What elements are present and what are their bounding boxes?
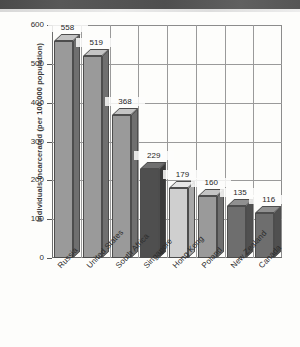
y-tick-label: 0 xyxy=(10,253,44,262)
y-tick-mark xyxy=(47,103,52,104)
y-tick-mark xyxy=(47,142,52,143)
y-tick-label: 400 xyxy=(10,98,44,107)
y-tick-mark xyxy=(47,258,52,259)
y-tick-label: 600 xyxy=(10,20,44,29)
bar-value-label: 368 xyxy=(105,97,145,106)
bar-side-face xyxy=(102,50,109,258)
y-tick-mark xyxy=(47,180,52,181)
bar-value-label: 116 xyxy=(249,195,289,204)
y-tick-mark xyxy=(47,219,52,220)
bar-value-label: 160 xyxy=(191,178,231,187)
gridline-vertical xyxy=(110,25,111,258)
bar[interactable] xyxy=(83,56,102,258)
gridline-vertical xyxy=(253,25,254,258)
bar-front-face xyxy=(54,41,73,258)
y-tick-label: 200 xyxy=(10,175,44,184)
y-tick-label: 500 xyxy=(10,59,44,68)
bar-chart: Individuals Incarcerated (per 100,000 po… xyxy=(0,0,300,347)
gridline-vertical xyxy=(196,25,197,258)
bar-value-label: 519 xyxy=(76,38,116,47)
y-tick-mark xyxy=(47,64,52,65)
gridline-vertical xyxy=(225,25,226,258)
bar-value-label: 229 xyxy=(134,151,174,160)
bar-front-face xyxy=(83,56,102,258)
gridline-vertical xyxy=(81,25,82,258)
gridline-vertical xyxy=(167,25,168,258)
y-tick-label: 100 xyxy=(10,214,44,223)
bar-side-face xyxy=(131,109,138,258)
bar-value-label: 558 xyxy=(48,23,88,32)
bar[interactable] xyxy=(54,41,73,258)
bar-side-face xyxy=(73,35,80,258)
gridline-vertical xyxy=(138,25,139,258)
y-tick-label: 300 xyxy=(10,137,44,146)
